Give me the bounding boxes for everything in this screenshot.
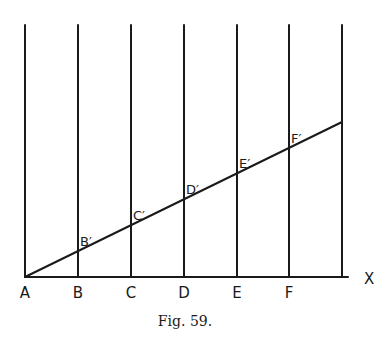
intersection-point-label: E′	[239, 156, 250, 171]
intersection-point-label: D′	[186, 182, 199, 197]
x-axis-label: X	[364, 270, 374, 288]
base-point-label: A	[20, 284, 31, 302]
intersection-point-label: C′	[133, 208, 145, 223]
figure-59: ABCDEF B′C′D′E′F′ X Fig. 59.	[0, 0, 392, 341]
base-point-label: C	[126, 284, 136, 302]
base-point-labels: ABCDEF	[20, 284, 293, 302]
figure-caption: Fig. 59.	[158, 313, 212, 329]
intersection-point-label: F′	[291, 131, 301, 146]
base-point-label: E	[232, 284, 241, 302]
base-point-label: D	[178, 284, 190, 302]
diagram-svg: ABCDEF B′C′D′E′F′ X Fig. 59.	[0, 0, 392, 341]
vertical-lines	[25, 25, 342, 277]
base-point-label: F	[285, 284, 294, 302]
base-point-label: B	[73, 284, 83, 302]
intersection-point-labels: B′C′D′E′F′	[80, 131, 301, 249]
intersection-point-label: B′	[80, 234, 92, 249]
